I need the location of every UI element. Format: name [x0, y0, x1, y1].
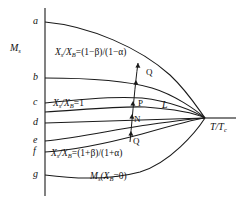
y-tick-label-g: g [33, 169, 38, 179]
point-label-q-upper: Q [146, 68, 153, 77]
phase-diagram-figure: Ms T/Tc a b c d e f g Xs/XB=(1−β)/(1−α) … [0, 0, 239, 201]
x-axis-label: T/Tc [210, 122, 227, 132]
y-tick-label-a: a [33, 16, 38, 26]
formula-bottom: Xs/XB=(1+β)/(1+α) [51, 149, 122, 159]
formula-baseline: Ms(XB=0) [90, 172, 127, 182]
y-tick-label-c: c [33, 97, 37, 107]
point-label-n: N [134, 115, 141, 124]
tie-arrow-1 [135, 63, 140, 68]
y-tick-label-e: e [33, 135, 37, 145]
point-label-q-lower: Q [133, 137, 140, 146]
formula-middle: Xs/XB=1 [53, 99, 84, 109]
y-axis-label: Ms [10, 43, 21, 53]
tie-arrow-3 [130, 101, 135, 106]
tie-arrow-2 [133, 80, 138, 85]
curve-l [45, 107, 205, 118]
point-label-l: L [162, 100, 168, 110]
formula-top: Xs/XB=(1−β)/(1−α) [55, 48, 126, 58]
y-tick-label-d: d [33, 117, 38, 127]
y-tick-label-f: f [33, 146, 36, 156]
point-label-p: P [138, 99, 143, 108]
y-tick-label-b: b [33, 72, 38, 82]
curve-e [45, 118, 205, 141]
tie-line [130, 63, 138, 142]
